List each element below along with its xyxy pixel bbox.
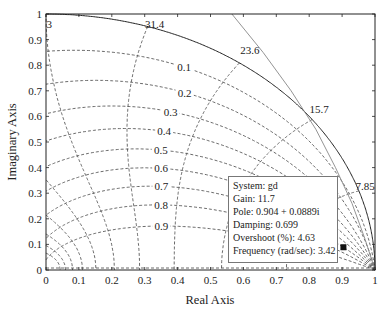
x-tick-label: 0.8 [302,274,316,286]
damping-label: 0.8 [154,199,168,211]
y-tick-label: 1 [37,8,43,20]
y-tick-label: 0 [37,264,43,276]
damping-label: 0.6 [154,162,168,174]
frequency-label: 7.85 [356,180,376,192]
x-tick-label: 0.3 [138,274,152,286]
datatip-gain: Gain: 11.7 [233,192,333,205]
x-tick-label: 0 [43,274,49,286]
x-tick-label: 1 [372,274,378,286]
x-tick-label: 0.7 [269,274,283,286]
y-tick-label: 0.9 [28,34,42,46]
root-locus-plot: 0.10.20.30.40.50.60.70.80.931.423.615.77… [0,0,386,314]
x-tick-label: 0.2 [105,274,119,286]
y-tick-label: 0.8 [28,59,42,71]
frequency-label: 3 [47,18,53,30]
datatip-frequency: Frequency (rad/sec): 3.42 [233,244,333,257]
x-axis-label: Real Axis [186,293,235,307]
datatip-system: System: gd [233,179,333,192]
y-tick-label: 0.7 [28,85,42,97]
damping-label: 0.9 [154,220,168,232]
y-tick-label: 0.3 [28,187,42,199]
damping-label: 0.4 [157,125,171,137]
damping-label: 0.2 [178,87,192,99]
x-tick-label: 0.9 [335,274,349,286]
y-axis-label: Imaginary Axis [5,103,19,181]
frequency-label: 31.4 [145,18,165,30]
selected-pole-marker[interactable] [340,244,346,250]
frequency-label: 23.6 [240,44,260,56]
datatip[interactable]: System: gd Gain: 11.7 Pole: 0.904 + 0.08… [228,176,338,263]
damping-label: 0.1 [177,61,191,73]
datatip-pole: Pole: 0.904 + 0.0889i [233,205,333,218]
y-tick-label: 0.1 [28,238,42,250]
frequency-label: 15.7 [309,103,329,115]
x-tick-label: 0.1 [72,274,86,286]
damping-label: 0.3 [164,106,178,118]
x-tick-label: 0.4 [171,274,185,286]
y-tick-label: 0.5 [28,136,42,148]
datatip-overshoot: Overshoot (%): 4.63 [233,231,333,244]
y-tick-label: 0.6 [28,110,42,122]
datatip-damping: Damping: 0.699 [233,218,333,231]
x-tick-label: 0.5 [204,274,218,286]
damping-label: 0.5 [154,144,168,156]
x-tick-label: 0.6 [237,274,251,286]
y-tick-label: 0.4 [28,162,42,174]
y-tick-label: 0.2 [28,213,42,225]
damping-label: 0.7 [155,180,169,192]
